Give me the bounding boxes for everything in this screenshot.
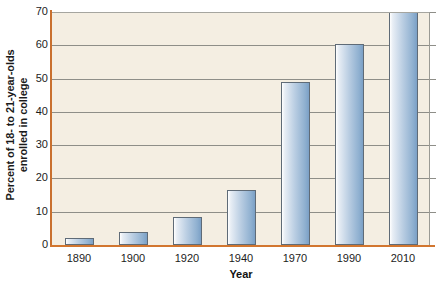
x-axis-tick-label: 1890 [49, 252, 109, 264]
y-axis-tick-label: 40 [10, 106, 48, 117]
y-axis-tick-label: 60 [10, 39, 48, 50]
y-axis-tick-mark [430, 45, 436, 46]
x-axis-tick-label: 1920 [157, 252, 217, 264]
x-axis-title: Year [52, 268, 430, 280]
y-axis-tick-label: 70 [10, 6, 48, 17]
plot-area [52, 12, 430, 245]
gridline [52, 45, 430, 46]
bar-chart-figure: Percent of 18- to 21-year-olds enrolled … [0, 0, 437, 284]
x-axis-tick-label: 1940 [211, 252, 271, 264]
y-axis-tick-mark [430, 112, 436, 113]
y-axis-tick-label: 50 [10, 73, 48, 84]
y-axis-tick-mark [430, 145, 436, 146]
x-axis-tick-label: 1970 [265, 252, 325, 264]
x-axis-tick-label: 1900 [103, 252, 163, 264]
bar [227, 190, 256, 245]
gridline [52, 79, 430, 80]
bar [389, 12, 418, 245]
gridline [52, 145, 430, 146]
y-axis-tick-labels: 010203040506070 [0, 0, 48, 284]
y-axis-tick-label: 10 [10, 206, 48, 217]
bar [281, 82, 310, 245]
x-axis-spine [50, 245, 435, 247]
gridline [52, 112, 430, 113]
bar [173, 217, 202, 245]
x-axis-tick-label: 1990 [319, 252, 379, 264]
y-axis-tick-mark [430, 79, 436, 80]
y-axis-tick-label: 0 [10, 239, 48, 250]
y-axis-tick-mark [430, 12, 436, 13]
x-axis-tick-label: 2010 [373, 252, 433, 264]
y-axis-tick-label: 20 [10, 172, 48, 183]
y-axis-tick-label: 30 [10, 139, 48, 150]
bar [335, 44, 364, 245]
bar [65, 238, 94, 245]
y-axis-tick-mark [430, 178, 436, 179]
gridline [52, 178, 430, 179]
bar [119, 232, 148, 245]
plot-border-top [52, 12, 430, 13]
y-axis-spine [50, 10, 52, 247]
y-axis-tick-mark [430, 212, 436, 213]
